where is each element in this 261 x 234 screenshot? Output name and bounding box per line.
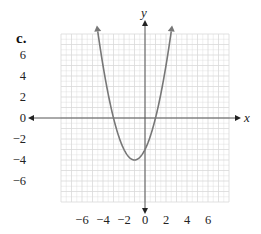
y-tick-label: 6	[20, 48, 26, 62]
x-axis-arrow-right-icon	[235, 115, 241, 121]
x-axis-arrow-left-icon	[28, 115, 34, 121]
curve-arrow-right-icon	[168, 25, 175, 31]
parabola-chart: xy−6−4−202466420−2−4−6	[0, 0, 261, 234]
y-tick-label: −4	[13, 153, 27, 167]
x-tick-label: −4	[96, 213, 110, 227]
y-tick-label: 4	[20, 69, 27, 83]
x-tick-label: 6	[205, 213, 211, 227]
x-axis-label: x	[243, 110, 250, 125]
y-tick-label: −2	[13, 132, 26, 146]
y-tick-label: 2	[20, 90, 26, 104]
y-axis-label: y	[139, 5, 147, 20]
curve-arrow-left-icon	[94, 25, 101, 31]
x-tick-label: 0	[142, 213, 148, 227]
x-tick-label: −2	[117, 213, 130, 227]
part-label: c.	[16, 30, 26, 47]
x-tick-label: 4	[184, 213, 191, 227]
y-axis-arrow-up-icon	[142, 20, 148, 26]
y-tick-label: 0	[20, 111, 26, 125]
x-tick-label: 2	[163, 213, 169, 227]
x-tick-label: −6	[75, 213, 88, 227]
tick-labels: xy−6−4−202466420−2−4−6	[13, 5, 250, 227]
y-tick-label: −6	[13, 174, 26, 188]
